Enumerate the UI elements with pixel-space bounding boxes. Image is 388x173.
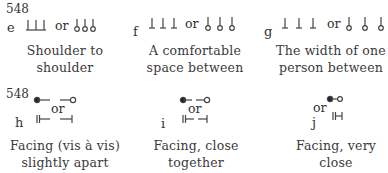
caption-line: Facing, very <box>286 137 386 154</box>
double-bar-and-bar-facing-icon <box>36 114 78 124</box>
or-text: or <box>55 18 69 33</box>
three-standing-pins-spaced-icon <box>149 16 181 30</box>
three-pins-with-circles-spaced-icon <box>205 16 239 32</box>
caption-line: slightly apart <box>4 154 126 171</box>
page-number: 548 <box>6 2 29 16</box>
caption-line: Facing, close <box>140 137 252 154</box>
caption-line: together <box>140 154 252 171</box>
page-number: 548 <box>6 87 29 101</box>
item-letter-j: j <box>312 115 316 130</box>
or-text: or <box>313 100 327 115</box>
item-letter-h: h <box>15 115 23 130</box>
caption-j: Facing, very close <box>286 137 386 171</box>
or-text: or <box>327 16 341 31</box>
caption-f: A comfortable space between <box>140 42 250 76</box>
caption-h: Facing (vis à vis) slightly apart <box>4 137 126 171</box>
three-standing-pins-wide-icon <box>282 16 322 30</box>
caption-line: close <box>286 154 386 171</box>
item-letter-e: e <box>7 20 15 35</box>
double-bar-and-bar-close-icon <box>182 114 212 124</box>
caption-line: Shoulder to <box>10 42 120 59</box>
filled-dot-and-open-circle-very-close-icon <box>327 94 345 104</box>
caption-line: shoulder <box>10 59 120 76</box>
three-pins-with-circles-wide-icon <box>346 16 386 32</box>
three-standing-pins-icon <box>26 18 48 32</box>
caption-line: The width of one <box>275 42 387 59</box>
item-letter-i: i <box>161 116 165 131</box>
caption-e: Shoulder to shoulder <box>10 42 120 76</box>
caption-i: Facing, close together <box>140 137 252 171</box>
caption-line: Facing (vis à vis) <box>4 137 126 154</box>
caption-line: space between <box>140 59 250 76</box>
double-bar-and-bar-very-close-icon <box>332 111 346 121</box>
item-letter-f: f <box>133 24 138 39</box>
caption-line: person between <box>275 59 387 76</box>
item-letter-g: g <box>264 24 272 39</box>
three-pins-with-circles-icon <box>74 18 98 32</box>
or-text: or <box>185 16 199 31</box>
caption-g: The width of one person between <box>275 42 387 76</box>
caption-line: A comfortable <box>140 42 250 59</box>
